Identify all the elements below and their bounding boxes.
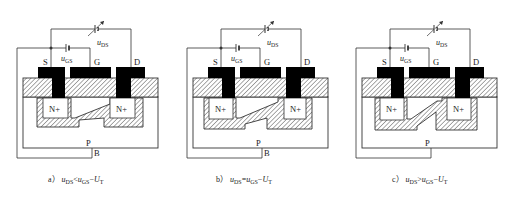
drain-n-plus-label: N+ [290,104,301,114]
drain-label: D [134,57,140,67]
caption-c: c） uDS>uGS−UT [392,175,448,185]
caption-a: a） uDS<uGS−UT [48,175,104,185]
drain-label: D [304,57,310,67]
gate-label: G [433,57,439,67]
uds-label: uDS [436,38,447,48]
mosfet-figure: uDSuGSSGDN+N+PBa） uDS<uGS−UTuDSuGSSGDN+N… [0,0,509,204]
oxide-layer [23,78,158,97]
p-substrate-label: P [425,138,430,148]
p-substrate-label: P [256,138,261,148]
drain-label: D [473,57,479,67]
gate-label: G [264,57,270,67]
body-label: B [94,148,100,158]
source-n-plus-label: N+ [215,104,226,114]
oxide-layer [362,78,497,97]
body-label: B [264,148,270,158]
gate-metal [409,67,450,78]
gate-metal [240,67,281,78]
source-label: S [43,57,48,67]
panel-b: uDSuGSSGDN+N+PB [187,21,328,158]
drain-n-plus-label: N+ [453,104,464,114]
source-label: S [382,57,387,67]
oxide-layer [193,78,328,97]
gate-metal [70,67,111,78]
uds-label: uDS [267,38,278,48]
drain-n-plus-label: N+ [116,104,127,114]
ugs-label: uGS [231,54,242,64]
ugs-label: uGS [61,54,72,64]
source-n-plus-label: N+ [386,104,397,114]
ugs-label: uGS [400,54,411,64]
junction-dot [50,47,53,50]
panel-c: uDSuGSSGDN+N+P [356,21,497,158]
caption-b: b） uDS=uGS−UT [216,175,272,185]
junction-dot [389,47,392,50]
uds-label: uDS [97,38,108,48]
gate-label: G [94,57,100,67]
source-n-plus-label: N+ [49,104,60,114]
p-substrate-label: P [86,138,91,148]
junction-dot [220,47,223,50]
source-label: S [213,57,218,67]
panel-a: uDSuGSSGDN+N+PB [17,21,158,158]
